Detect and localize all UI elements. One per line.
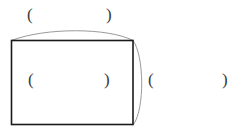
shape-drawing: [0, 0, 241, 132]
diagram-canvas: ( ) ( ) ( ): [0, 0, 241, 132]
label-top-left-paren: (: [27, 6, 33, 23]
label-inner-left-paren: (: [28, 71, 34, 88]
right-arc: [133, 41, 142, 125]
label-inner-right-paren: ): [104, 71, 110, 88]
top-arc: [12, 31, 134, 41]
label-outer-left-paren: (: [148, 71, 154, 88]
label-top-right-paren: ): [106, 6, 112, 23]
label-outer-right-paren: ): [222, 71, 228, 88]
